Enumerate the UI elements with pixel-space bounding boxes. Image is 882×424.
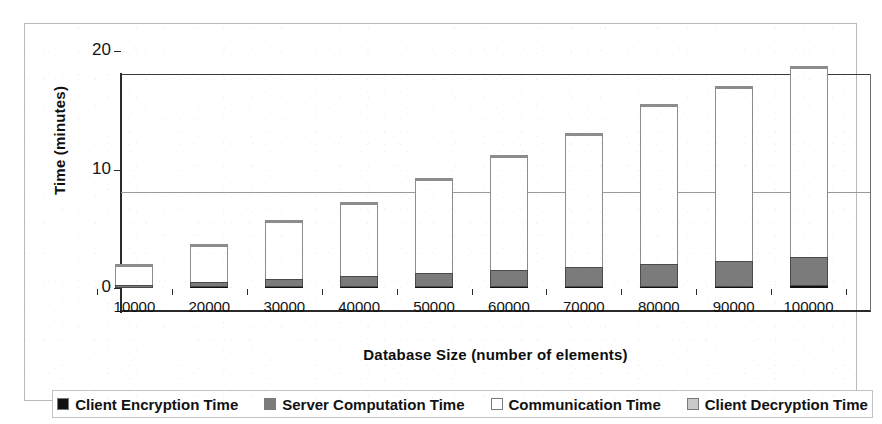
legend-swatch-icon — [491, 398, 503, 410]
bar-segment[interactable] — [115, 285, 153, 287]
legend-label: Server Computation Time — [282, 396, 464, 413]
bar-group[interactable] — [790, 51, 828, 288]
bar-group[interactable] — [640, 51, 678, 288]
x-tick-mark — [621, 289, 622, 295]
legend-swatch-icon — [264, 398, 276, 410]
bar-group[interactable] — [115, 51, 153, 288]
bar-segment[interactable] — [415, 180, 453, 273]
x-tick-label-80000: 80000 — [621, 298, 696, 315]
bar-group[interactable] — [265, 51, 303, 288]
bar-segment[interactable] — [340, 202, 378, 204]
bar-segment[interactable] — [565, 135, 603, 267]
x-tick-mark — [247, 289, 248, 295]
x-tick-label-50000: 50000 — [397, 298, 472, 315]
bar-segment[interactable] — [715, 86, 753, 88]
x-tick-mark — [172, 289, 173, 295]
bar-segment[interactable] — [565, 133, 603, 135]
chart-figure-frame: Time (minutes) 01020 1000020000300004000… — [24, 23, 857, 401]
bar-segment[interactable] — [640, 104, 678, 106]
bar-group[interactable] — [415, 51, 453, 288]
legend-label: Communication Time — [509, 396, 661, 413]
bar-segment[interactable] — [115, 264, 153, 266]
bar-segment[interactable] — [115, 266, 153, 285]
bar-segment[interactable] — [415, 178, 453, 180]
x-tick-label-70000: 70000 — [546, 298, 621, 315]
legend-label: Client Decryption Time — [705, 396, 868, 413]
x-tick-mark — [696, 289, 697, 295]
bar-segment[interactable] — [340, 204, 378, 275]
legend-item[interactable]: Communication Time — [491, 396, 661, 413]
x-tick-label-60000: 60000 — [472, 298, 547, 315]
bar-segment[interactable] — [190, 246, 228, 282]
x-tick-mark — [97, 289, 98, 295]
plot-area — [97, 51, 846, 288]
x-tick-mark — [472, 289, 473, 295]
bar-group[interactable] — [565, 51, 603, 288]
bar-segment[interactable] — [190, 244, 228, 246]
bar-segment[interactable] — [640, 106, 678, 264]
chart-legend: Client Encryption TimeServer Computation… — [52, 390, 873, 418]
legend-label: Client Encryption Time — [75, 396, 238, 413]
legend-item[interactable]: Server Computation Time — [264, 396, 464, 413]
bar-segment[interactable] — [715, 261, 753, 286]
x-tick-mark — [846, 289, 847, 295]
x-tick-label-40000: 40000 — [322, 298, 397, 315]
bar-segment[interactable] — [265, 220, 303, 222]
x-tick-mark — [322, 289, 323, 295]
x-tick-mark — [397, 289, 398, 295]
x-axis-title: Database Size (number of elements) — [121, 346, 870, 363]
bar-segment[interactable] — [490, 157, 528, 270]
x-tick-label-90000: 90000 — [696, 298, 771, 315]
bar-group[interactable] — [490, 51, 528, 288]
x-tick-mark — [771, 289, 772, 295]
bar-segment[interactable] — [265, 222, 303, 279]
legend-swatch-icon — [57, 398, 69, 410]
x-tick-label-10000: 10000 — [97, 298, 172, 315]
bar-segment[interactable] — [715, 88, 753, 261]
x-tick-label-20000: 20000 — [172, 298, 247, 315]
legend-swatch-icon — [687, 398, 699, 410]
bar-segment[interactable] — [490, 155, 528, 157]
bar-group[interactable] — [715, 51, 753, 288]
bar-segment[interactable] — [340, 276, 378, 287]
bar-segment[interactable] — [790, 66, 828, 68]
plot-right-edge — [870, 74, 871, 311]
bar-segment[interactable] — [640, 264, 678, 287]
bar-segment[interactable] — [265, 279, 303, 287]
x-axis: 1000020000300004000050000600007000080000… — [97, 289, 846, 323]
legend-item[interactable]: Client Decryption Time — [687, 396, 868, 413]
bar-segment[interactable] — [790, 257, 828, 286]
x-tick-mark — [546, 289, 547, 295]
legend-item[interactable]: Client Encryption Time — [57, 396, 238, 413]
bar-group[interactable] — [340, 51, 378, 288]
bar-segment[interactable] — [190, 282, 228, 287]
bar-segment[interactable] — [490, 270, 528, 287]
bar-group[interactable] — [190, 51, 228, 288]
bar-segment[interactable] — [790, 68, 828, 257]
x-tick-label-30000: 30000 — [247, 298, 322, 315]
x-tick-label-100000: 100000 — [771, 298, 846, 315]
bar-segment[interactable] — [415, 273, 453, 287]
bar-segment[interactable] — [565, 267, 603, 287]
